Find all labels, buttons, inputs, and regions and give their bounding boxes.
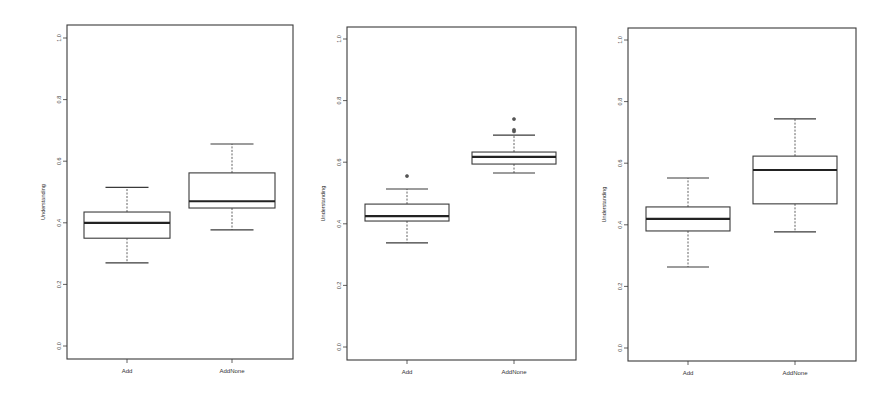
y-tick-label: 0.0 [56,342,62,350]
y-tick-label: 0.6 [617,159,623,167]
y-tick-label: 0.8 [336,97,342,105]
boxplot-panel-3: 0.00.20.40.60.81.0UnderstandingAddAddNon… [601,28,856,376]
box-add [84,187,170,262]
x-tick-label: Add [683,370,694,376]
y-tick-label: 0.2 [56,281,62,289]
x-tick-label: AddNone [219,368,245,374]
y-tick-label: 0.0 [336,343,342,351]
y-axis-title: Understanding [601,187,607,223]
x-tick-label: AddNone [501,369,527,375]
boxplot-panel-1: 0.00.20.40.60.81.0UnderstandingAddAddNon… [40,25,293,374]
box-addnone [472,117,556,172]
y-axis-title: Understanding [320,186,326,222]
y-tick-label: 0.8 [56,96,62,104]
x-tick-label: Add [402,369,413,375]
x-tick-label: Add [122,368,133,374]
outlier-point [405,174,408,177]
y-tick-label: 0.0 [617,344,623,352]
y-tick-label: 0.2 [617,283,623,291]
iqr-box [189,173,275,208]
box-add [646,178,730,267]
outlier-point [512,128,515,131]
outlier-point [512,117,515,120]
y-tick-label: 0.6 [56,157,62,165]
boxplot-panel-2: 0.00.20.40.60.81.0UnderstandingAddAddNon… [320,27,576,375]
y-tick-label: 0.4 [56,219,62,227]
iqr-box [365,204,449,221]
y-tick-label: 0.6 [336,158,342,166]
y-tick-label: 1.0 [56,34,62,42]
x-tick-label: AddNone [782,370,808,376]
y-tick-label: 0.4 [617,221,623,229]
iqr-box [84,212,170,238]
y-tick-label: 0.4 [336,220,342,228]
charts-canvas: 0.00.20.40.60.81.0UnderstandingAddAddNon… [0,0,895,393]
y-axis-title: Understanding [40,184,46,220]
box-addnone [753,119,837,232]
y-tick-label: 0.8 [617,98,623,106]
y-tick-label: 0.2 [336,282,342,290]
y-tick-label: 1.0 [336,35,342,43]
iqr-box [753,156,837,204]
plot-frame [347,27,576,360]
boxplot-figure: 0.00.20.40.60.81.0UnderstandingAddAddNon… [0,0,895,393]
y-tick-label: 1.0 [617,36,623,44]
box-addnone [189,144,275,230]
box-add [365,174,449,242]
